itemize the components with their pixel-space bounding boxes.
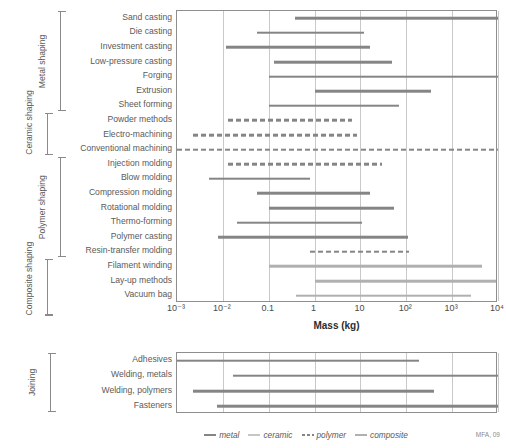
bar-polymer	[193, 134, 357, 137]
chart-row	[177, 274, 496, 289]
bar-metal	[295, 17, 498, 20]
shaping-plot-area	[176, 10, 497, 302]
row-label: Welding, polymers	[101, 386, 172, 395]
legend-label: metal	[219, 430, 239, 440]
gridline	[498, 353, 499, 412]
x-axis-ticks: 10⁻³10⁻²0.111010²10³10⁴	[176, 303, 497, 319]
row-label: Compression molding	[89, 188, 172, 197]
bar-polymer	[228, 119, 352, 122]
x-tick-label: 10³	[445, 303, 458, 313]
legend-label: ceramic	[263, 430, 292, 440]
group-bracket	[47, 259, 48, 315]
bar-polymer	[228, 163, 382, 166]
chart-row	[177, 368, 496, 383]
chart-row	[177, 26, 496, 41]
legend-item: composite	[355, 430, 408, 440]
chart-row	[177, 99, 496, 114]
group-bracket	[47, 113, 48, 155]
bar-polymer	[310, 251, 409, 254]
legend-swatch-metal	[204, 434, 216, 437]
group-label: Metal shaping	[38, 11, 58, 111]
x-tick-label: 10	[354, 303, 364, 313]
chart-row	[177, 113, 496, 128]
row-label: Forging	[143, 71, 172, 80]
chart-row	[177, 40, 496, 55]
bar-metal	[193, 390, 435, 393]
row-label: Fasteners	[134, 401, 172, 410]
bar-metal	[237, 221, 363, 224]
chart-row	[177, 399, 496, 414]
legend-swatch-polymer	[302, 434, 314, 437]
group-bracket	[60, 157, 61, 257]
chart-row	[177, 84, 496, 99]
legend-item: ceramic	[248, 430, 292, 440]
legend-swatch-composite	[355, 434, 367, 437]
bar-composite	[269, 265, 482, 268]
bar-metal	[315, 90, 432, 93]
bar-metal	[226, 46, 369, 49]
group-label: Joining	[28, 353, 48, 412]
row-label: Thermo-forming	[111, 217, 172, 226]
row-label: Investment casting	[100, 42, 172, 51]
x-axis-title: Mass (kg)	[176, 320, 497, 331]
group-label: Polymer shaping	[38, 157, 58, 257]
bar-metal	[257, 32, 364, 35]
x-tick-label: 10⁻³	[167, 303, 185, 313]
x-tick-label: 10⁻²	[213, 303, 231, 313]
chart-row	[177, 157, 496, 172]
bar-metal	[269, 75, 498, 78]
joining-plot-area	[176, 352, 497, 413]
row-label: Vacuum bag	[124, 290, 172, 299]
bar-metal	[269, 105, 399, 108]
chart-row	[177, 69, 496, 84]
legend-swatch-ceramic	[248, 434, 260, 437]
row-label: Injection molding	[108, 159, 173, 168]
bar-metal	[209, 178, 310, 181]
x-tick-label: 1	[311, 303, 316, 313]
row-label: Die casting	[129, 27, 172, 36]
bar-metal	[233, 375, 498, 378]
legend-item: polymer	[302, 430, 347, 440]
row-label: Low-pressure casting	[90, 57, 172, 66]
group-bracket	[60, 11, 61, 111]
row-label: Sheet forming	[118, 100, 172, 109]
legend: metalceramicpolymercomposite	[176, 429, 436, 441]
chart-row	[177, 11, 496, 26]
row-label: Blow molding	[121, 173, 172, 182]
row-label: Filament winding	[108, 261, 172, 270]
chart-row	[177, 353, 496, 368]
bar-composite	[296, 294, 471, 297]
chart-row	[177, 172, 496, 187]
row-label: Resin-transfer molding	[86, 246, 172, 255]
bar-metal	[218, 236, 408, 239]
chart-row	[177, 55, 496, 70]
chart-row	[177, 215, 496, 230]
bar-metal	[269, 207, 395, 210]
group-label: Ceramic shaping	[25, 113, 45, 155]
group-bracket	[50, 353, 51, 412]
row-label: Welding, metals	[111, 370, 172, 379]
legend-label: polymer	[317, 430, 347, 440]
row-label: Lay-up methods	[110, 276, 172, 285]
bar-metal	[217, 405, 498, 408]
row-label: Polymer casting	[111, 232, 172, 241]
chart-row	[177, 230, 496, 245]
row-label: Electro-machining	[103, 130, 172, 139]
chart-row	[177, 186, 496, 201]
chart-row	[177, 259, 496, 274]
row-label: Powder methods	[108, 115, 173, 124]
row-label: Conventional machining	[80, 144, 172, 153]
chart-row	[177, 384, 496, 399]
chart-row	[177, 128, 496, 143]
bar-metal	[274, 61, 393, 64]
row-label: Sand casting	[122, 13, 172, 22]
x-tick-label: 10²	[399, 303, 412, 313]
row-label: Adhesives	[132, 355, 172, 364]
legend-label: composite	[370, 430, 408, 440]
chart-row	[177, 142, 496, 157]
bar-metal	[257, 192, 370, 195]
chart-row	[177, 201, 496, 216]
credit-text: MFA, 09	[476, 431, 500, 438]
bar-metal	[177, 359, 419, 362]
row-label: Rotational molding	[101, 203, 172, 212]
